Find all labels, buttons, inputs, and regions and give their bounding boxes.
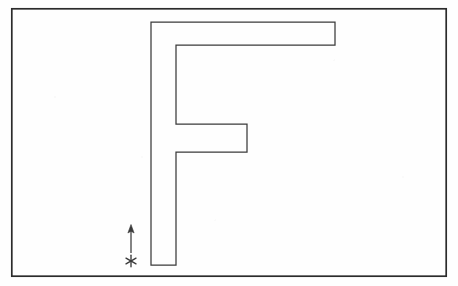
line-drawing: F-shaped polygon with start marker and d… (0, 0, 458, 286)
figure-canvas: F-shaped polygon with start marker and d… (0, 0, 458, 286)
figure-background (0, 0, 458, 286)
